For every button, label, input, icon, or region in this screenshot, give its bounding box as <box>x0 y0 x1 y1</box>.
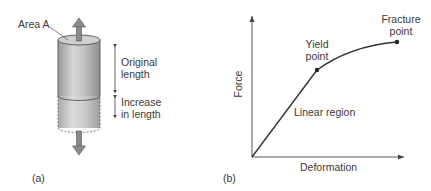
fracture-point-label: Fracture point <box>376 13 426 37</box>
panel-a-label: (a) <box>32 172 45 184</box>
increase-length-line1: Increase <box>121 96 161 108</box>
original-length-line1: Original <box>121 56 157 68</box>
fracture-point-line1: Fracture <box>376 13 426 25</box>
area-a-label: Area A <box>18 18 50 30</box>
cylinder-extension <box>58 96 100 133</box>
tension-arrow-down-icon <box>73 131 86 155</box>
cylinder-body <box>58 40 100 101</box>
increase-length-line2: in length <box>121 108 161 120</box>
yield-point-label: Yield point <box>300 38 334 62</box>
fracture-point-marker <box>395 40 399 44</box>
yield-point-marker <box>315 68 319 72</box>
panel-b-label: (b) <box>223 172 236 184</box>
original-length-line2: length <box>121 68 157 80</box>
linear-region-label: Linear region <box>294 106 355 118</box>
original-length-label: Original length <box>121 56 157 80</box>
cylinder-diagram <box>50 18 115 155</box>
figure-canvas <box>0 0 431 191</box>
increase-length-label: Increase in length <box>121 96 161 120</box>
y-axis-label: Force <box>232 71 244 98</box>
yield-point-line1: Yield <box>300 38 334 50</box>
x-axis-label: Deformation <box>300 161 357 173</box>
yield-point-line2: point <box>300 50 334 62</box>
fracture-point-line2: point <box>376 25 426 37</box>
